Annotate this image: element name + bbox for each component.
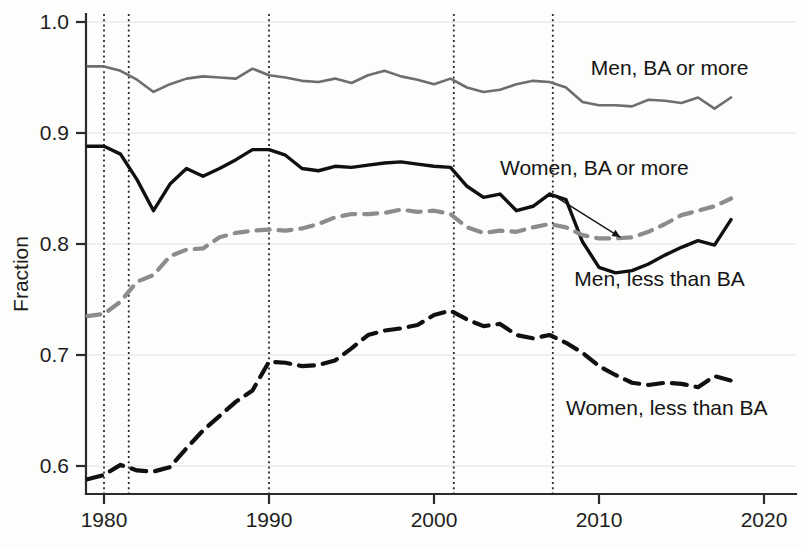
series-line-women-ba-or-more [88, 198, 732, 316]
xtick-marks-group [104, 494, 764, 504]
series-labels-group: Men, BA or moreMen, less than BAWomen, B… [500, 56, 768, 419]
x-tick-label-2000: 2000 [411, 508, 458, 531]
y-tick-label-0.9: 0.9 [40, 121, 69, 144]
x-tick-label-1980: 1980 [81, 508, 128, 531]
series-label-women-less-than-ba: Women, less than BA [566, 396, 768, 419]
x-tick-label-2020: 2020 [741, 508, 788, 531]
line-chart-svg: 0.60.70.80.91.0 19801990200020102020 Men… [0, 0, 802, 548]
xtick-labels-group: 19801990200020102020 [81, 508, 788, 531]
axes-group [86, 14, 796, 494]
x-tick-label-1990: 1990 [246, 508, 293, 531]
ytick-marks-group [76, 22, 86, 466]
y-axis-title: Fraction [9, 236, 32, 312]
series-label-women-ba-or-more: Women, BA or more [500, 156, 689, 179]
annotation-arrow-group [550, 193, 621, 237]
y-tick-label-0.6: 0.6 [40, 454, 69, 477]
y-tick-label-1.0: 1.0 [40, 10, 69, 33]
ytick-labels-group: 0.60.70.80.91.0 [40, 10, 69, 477]
y-tick-label-0.7: 0.7 [40, 343, 69, 366]
y-tick-label-0.8: 0.8 [40, 232, 69, 255]
annotation-arrow-head [612, 230, 621, 237]
x-tick-label-2010: 2010 [576, 508, 623, 531]
series-label-men-less-than-ba: Men, less than BA [574, 267, 744, 290]
annotation-arrow-line [550, 193, 621, 237]
event-lines-group [104, 14, 553, 494]
chart-container: 0.60.70.80.91.0 19801990200020102020 Men… [0, 0, 802, 548]
series-label-men-ba-or-more: Men, BA or more [591, 56, 749, 79]
